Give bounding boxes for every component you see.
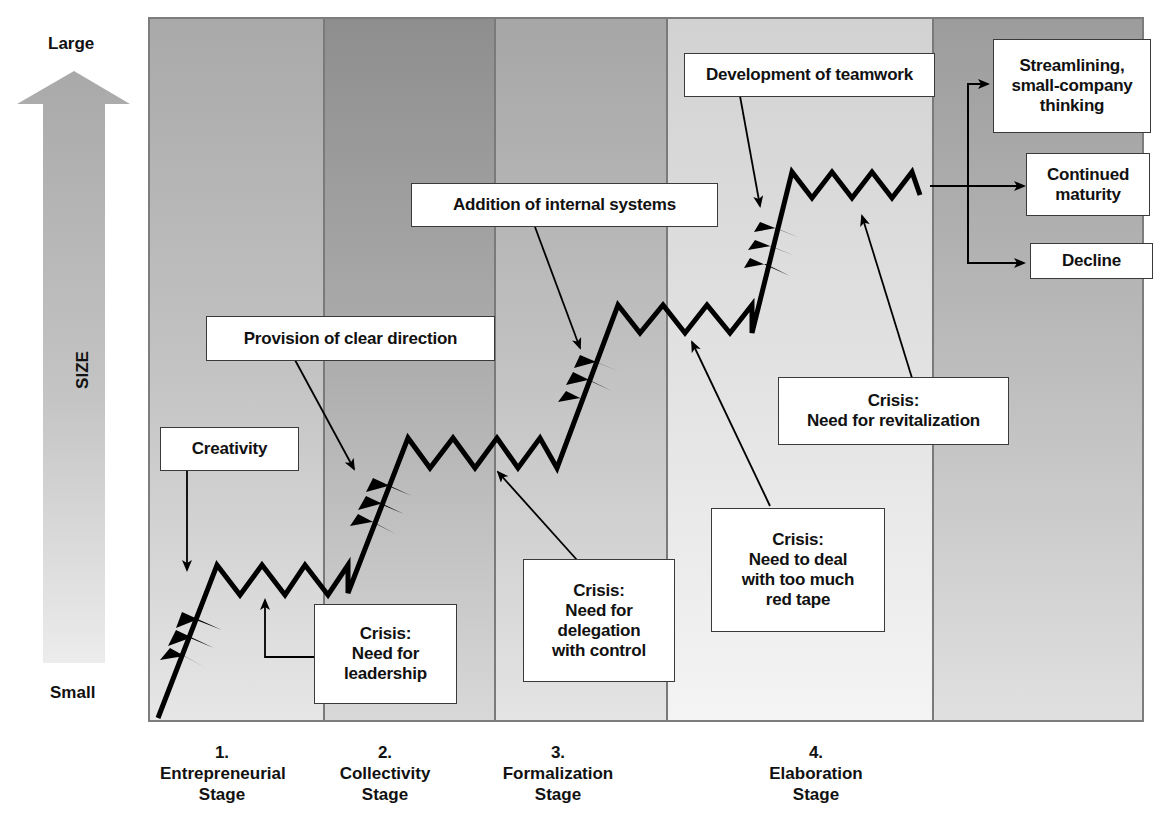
- crisis-delegation-line2: Need for: [565, 601, 632, 621]
- stage-2-number: 2.: [325, 742, 445, 763]
- stage-label-4: 4. Elaboration Stage: [756, 742, 876, 805]
- outcome-streamlining: Streamlining, small-company thinking: [993, 39, 1151, 133]
- stage-3-number: 3.: [496, 742, 620, 763]
- label-teamwork-text: Development of teamwork: [706, 65, 913, 85]
- band-entrepreneurial: [150, 19, 325, 720]
- stage-3-suffix: Stage: [496, 784, 620, 805]
- crisis-delegation-line3: delegation: [557, 621, 640, 641]
- outcome-streamlining-line1: Streamlining,: [1019, 56, 1124, 76]
- crisis-leadership-line2: Need for: [352, 644, 419, 664]
- crisis-red-tape-line2: Need to deal: [749, 550, 848, 570]
- stage-1-number: 1.: [160, 742, 284, 763]
- stage-1-suffix: Stage: [160, 784, 284, 805]
- crisis-leadership-line3: leadership: [344, 664, 427, 684]
- label-internal-systems-text: Addition of internal systems: [453, 195, 676, 215]
- crisis-delegation-line4: with control: [552, 641, 646, 661]
- stage-3-name: Formalization: [496, 763, 620, 784]
- crisis-delegation-line1: Crisis:: [573, 581, 625, 601]
- label-teamwork: Development of teamwork: [684, 53, 935, 97]
- outcome-decline-line1: Decline: [1062, 251, 1121, 271]
- stage-label-2: 2. Collectivity Stage: [325, 742, 445, 805]
- label-internal-systems: Addition of internal systems: [411, 183, 718, 227]
- stage-4-name: Elaboration: [756, 763, 876, 784]
- stage-2-suffix: Stage: [325, 784, 445, 805]
- axis-title-size: SIZE: [73, 345, 93, 395]
- outcome-decline: Decline: [1030, 243, 1153, 279]
- outcome-maturity-line1: Continued: [1047, 165, 1129, 185]
- crisis-revitalization-line2: Need for revitalization: [807, 411, 980, 431]
- crisis-revitalization-line1: Crisis:: [868, 391, 920, 411]
- stage-label-3: 3. Formalization Stage: [496, 742, 620, 805]
- label-creativity-text: Creativity: [192, 439, 267, 459]
- stage-label-1: 1. Entrepreneurial Stage: [160, 742, 284, 805]
- outcome-maturity: Continued maturity: [1026, 153, 1150, 216]
- label-clear-direction: Provision of clear direction: [206, 316, 495, 361]
- crisis-delegation: Crisis: Need for delegation with control: [523, 559, 675, 682]
- stage-2-name: Collectivity: [325, 763, 445, 784]
- stage-4-number: 4.: [756, 742, 876, 763]
- crisis-leadership: Crisis: Need for leadership: [314, 604, 457, 704]
- stage-4-suffix: Stage: [756, 784, 876, 805]
- outcome-streamlining-line2: small-company: [1011, 76, 1132, 96]
- crisis-leadership-line1: Crisis:: [360, 624, 412, 644]
- crisis-red-tape-line3: with too much: [742, 570, 855, 590]
- axis-label-large: Large: [48, 34, 94, 54]
- crisis-revitalization: Crisis: Need for revitalization: [778, 377, 1009, 445]
- crisis-red-tape-line1: Crisis:: [772, 530, 824, 550]
- crisis-red-tape: Crisis: Need to deal with too much red t…: [711, 508, 885, 632]
- stage-1-name: Entrepreneurial: [160, 763, 284, 784]
- outcome-streamlining-line3: thinking: [1040, 96, 1105, 116]
- label-creativity: Creativity: [160, 427, 299, 471]
- outcome-maturity-line2: maturity: [1055, 185, 1120, 205]
- axis-label-small: Small: [50, 683, 95, 703]
- crisis-red-tape-line4: red tape: [766, 590, 831, 610]
- label-clear-direction-text: Provision of clear direction: [244, 329, 458, 349]
